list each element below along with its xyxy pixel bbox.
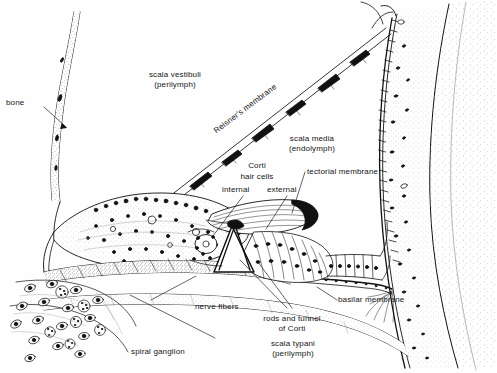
label-scala-media-line1: scala media: [273, 134, 351, 144]
label-rods-tunnel-line2: of Corti: [245, 324, 339, 334]
label-scala-vestibuli-line2: (perilymph): [133, 80, 217, 90]
label-basilar-membrane: basilar membrane: [338, 295, 404, 305]
label-corti: Corti: [230, 161, 284, 171]
label-scala-media-line2: (endolymph): [273, 144, 351, 154]
spiral-ganglion-cells: [9, 279, 136, 363]
label-scala-typani-line1: scala typani: [254, 339, 332, 349]
label-scala-vestibuli-line1: scala vestibuli: [133, 70, 217, 80]
figure-canvas: bone scala vestibuli (perilymph) Reisner…: [0, 0, 497, 373]
label-scala-typani-line2: (perilymph): [254, 349, 332, 359]
label-rods-tunnel-line1: rods and tunnel: [245, 314, 339, 324]
label-external: external: [267, 185, 297, 195]
left-bone-wall: [51, 12, 80, 202]
label-internal: internal: [222, 185, 249, 195]
label-bone: bone: [6, 98, 24, 108]
label-hair-cells: hair cells: [226, 172, 288, 182]
label-spiral-ganglion: spiral ganglion: [131, 347, 185, 357]
label-nerve-fibers: nerve fibers: [195, 302, 239, 312]
right-bone-capsule: [379, 0, 497, 370]
label-tectorial-membrane: tectorial membrane: [307, 167, 378, 177]
